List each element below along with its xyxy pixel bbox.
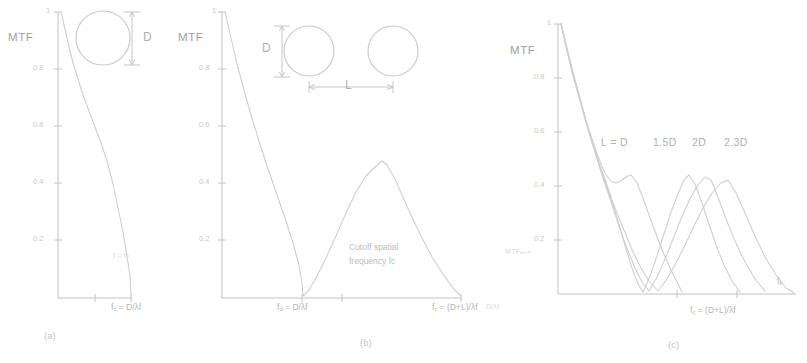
panel-c-caption: (c) <box>668 340 679 350</box>
panel-b-xtick-label-fc: fc = (D+L)/λf <box>432 303 478 312</box>
panel-a-ytick-08: 0.8 <box>33 64 43 72</box>
panel-b-curve <box>225 12 461 296</box>
panel-c-y-axis-label: MTF <box>510 45 535 57</box>
panel-a-ytick-04: 0.4 <box>33 178 43 186</box>
panel-b: MTF 1 0.8 0.6 0.4 0.2 D L Cutoff spatial… <box>200 0 500 363</box>
panel-b-caption: (b) <box>360 338 372 348</box>
panel-c-ytick-06: 0.6 <box>534 127 544 135</box>
panel-c-ytick-04: 0.4 <box>534 181 544 189</box>
panel-b-separation-label: L <box>345 79 352 91</box>
panel-c-curve-label-2D: 2D <box>692 137 706 148</box>
panel-c-curve-label-23D: 2.3D <box>724 137 748 148</box>
panel-c-curve-15D <box>561 24 740 292</box>
panel-c-xtick-label-fc: fc = (D+L)/λf <box>690 306 736 315</box>
panel-b-xtick-label-fd: fd = D/λf <box>277 303 308 312</box>
panel-a-ytick-06: 0.6 <box>33 121 43 129</box>
panel-c-ytick-02: 0.2 <box>534 235 544 243</box>
panel-b-cutoff-annotation-line1: Cutoff spatial <box>349 243 398 252</box>
panel-a-x-axis-label: fc = D/λf <box>111 303 141 312</box>
panel-c: MTF 1 0.8 0.6 0.4 0.2 MTFₘᵢₙ D/λf L = D … <box>500 0 807 363</box>
panel-a-diameter-label: D <box>143 31 152 43</box>
panel-c-curve-label-L-D: L = D <box>601 137 628 148</box>
panel-b-cutoff-annotation-line2: frequency fᴄ <box>349 257 395 266</box>
panel-a-plot <box>0 0 200 363</box>
panel-a-caption: (a) <box>44 331 56 341</box>
panel-a-ytick-1: 1 <box>46 7 50 15</box>
panel-b-ytick-02: 0.2 <box>199 235 209 243</box>
panel-c-plot <box>500 0 807 363</box>
panel-b-diameter-label: D <box>262 42 271 54</box>
panel-b-axes <box>218 12 462 302</box>
panel-c-x-axis-label: fₓ <box>777 277 782 286</box>
panel-c-threshold-label: MTFₘᵢₙ <box>505 248 530 256</box>
panel-c-curve-L-D <box>561 24 682 292</box>
panel-b-ytick-1: 1 <box>212 7 216 15</box>
panel-c-curve-23D <box>561 24 794 293</box>
panel-a-ytick-02: 0.2 <box>33 235 43 243</box>
panel-a-curve-annotation: f = fᴄ <box>113 252 129 260</box>
panel-a-aperture-diagram <box>76 11 140 65</box>
panel-b-ytick-06: 0.6 <box>199 121 209 129</box>
panel-b-ytick-08: 0.8 <box>199 64 209 72</box>
panel-c-curve-label-15D: 1.5D <box>653 137 677 148</box>
panel-c-ytick-08: 0.8 <box>534 73 544 81</box>
panel-a-y-axis-label: MTF <box>8 32 33 44</box>
panel-a: MTF 1 0.8 0.6 0.4 0.2 D f = fᴄ fc = D/λf… <box>0 0 200 363</box>
panel-b-y-axis-label: MTF <box>178 32 203 44</box>
panel-b-ytick-04: 0.4 <box>199 178 209 186</box>
panel-c-left-edge-label: D/λf <box>486 303 499 311</box>
panel-c-ytick-1: 1 <box>547 19 551 27</box>
panel-c-axes <box>554 24 796 298</box>
